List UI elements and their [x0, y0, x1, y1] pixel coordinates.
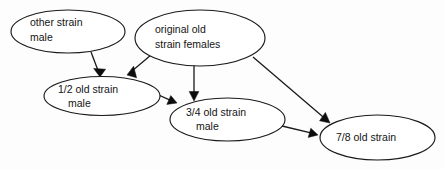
- arrow-head-icon: [94, 68, 106, 77]
- node-label-line1: 1/2 old strain: [58, 83, 118, 95]
- node-original-old-strain-females[interactable]: original old strain females: [135, 10, 265, 66]
- node-label: male: [196, 120, 219, 132]
- node-label: 7/8 old strain: [336, 131, 396, 143]
- node-label-line1: 7/8 old strain: [336, 131, 396, 143]
- node-layer: other strain male original old strain fe…: [11, 10, 435, 160]
- node-label: original old: [155, 23, 206, 35]
- edge-other-male-to-half: [91, 52, 106, 77]
- arrow-head-icon: [308, 128, 318, 137]
- node-label: strain females: [155, 38, 220, 50]
- node-label: male: [30, 31, 53, 43]
- node-label: other strain: [30, 16, 83, 28]
- node-label-line2: male: [30, 31, 53, 43]
- node-label-line1: other strain: [30, 16, 83, 28]
- node-half-old-strain-male[interactable]: 1/2 old strain male: [44, 77, 160, 116]
- arrow-head-icon: [189, 92, 199, 102]
- node-label: 3/4 old strain: [186, 106, 246, 118]
- node-label-line2: male: [196, 120, 219, 132]
- node-label: male: [68, 97, 91, 109]
- arrow-head-icon: [320, 112, 330, 123]
- edge-original-females-to-three-quarter: [189, 63, 199, 101]
- node-seven-eighth-old-strain[interactable]: 7/8 old strain: [320, 115, 435, 160]
- diagram-canvas: other strain male original old strain fe…: [0, 0, 445, 169]
- edge-three-quarter-to-seven-eighth: [282, 126, 318, 137]
- node-label-line1: 3/4 old strain: [186, 106, 246, 118]
- node-label-line1: original old: [155, 23, 206, 35]
- breeding-scheme-diagram: other strain male original old strain fe…: [0, 0, 445, 169]
- node-other-strain-male[interactable]: other strain male: [11, 10, 125, 53]
- edge-original-females-to-half: [127, 55, 151, 78]
- node-label: 1/2 old strain: [58, 83, 118, 95]
- edge-line: [282, 126, 314, 134]
- node-three-quarter-old-strain-male[interactable]: 3/4 old strain male: [170, 98, 285, 141]
- node-label-line2: strain females: [155, 38, 220, 50]
- node-label-line2: male: [68, 97, 91, 109]
- node-ellipse[interactable]: [170, 98, 285, 141]
